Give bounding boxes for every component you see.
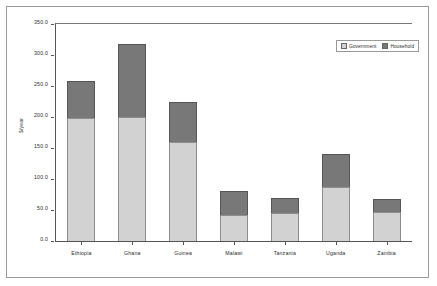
bar-segment-government[interactable] [169, 142, 197, 241]
y-axis-tick-label: 350.0 [34, 19, 48, 25]
bar-segment-household[interactable] [118, 44, 146, 117]
legend-swatch-government [341, 43, 347, 49]
bar-group[interactable]: Tanzania [271, 198, 299, 241]
y-axis-tick-label: 50.0 [37, 205, 48, 211]
legend-label: Household [390, 44, 414, 49]
bar-group[interactable]: Ethiopia [67, 81, 95, 241]
y-axis-tick-mark [51, 148, 54, 149]
x-axis-tick-mark [132, 241, 133, 245]
chart-frame: $/year 350.0300.0250.0200.0150.0100.050.… [6, 6, 429, 278]
bar-group[interactable]: Guinea [169, 102, 197, 241]
x-axis-tick-mark [285, 241, 286, 245]
bar-segment-government[interactable] [118, 117, 146, 241]
bar-segment-household[interactable] [67, 81, 95, 118]
x-axis-tick-label: Uganda [326, 250, 345, 256]
legend-label: Government [349, 44, 376, 49]
x-axis-tick-label: Malawi [225, 250, 242, 256]
y-axis-tick-mark [51, 86, 54, 87]
y-axis-tick-mark [51, 241, 54, 242]
chart-legend: GovernmentHousehold [336, 40, 419, 52]
x-axis-tick-label: Guinea [174, 250, 192, 256]
bar-group[interactable]: Malawi [220, 191, 248, 241]
y-axis-tick-label: 0.0 [40, 236, 48, 242]
bar-segment-household[interactable] [373, 199, 401, 212]
x-axis-tick-mark [336, 241, 337, 245]
x-axis-tick-mark [81, 241, 82, 245]
y-axis-title: $/year [18, 118, 24, 133]
bar-segment-household[interactable] [271, 198, 299, 213]
bar-segment-government[interactable] [271, 213, 299, 241]
y-axis-tick-mark [51, 24, 54, 25]
y-axis-tick-mark [51, 117, 54, 118]
legend-swatch-household [382, 43, 388, 49]
y-axis-tick-label: 200.0 [34, 112, 48, 118]
x-axis-tick-mark [183, 241, 184, 245]
bar-segment-household[interactable] [220, 191, 248, 215]
bar-segment-household[interactable] [322, 154, 350, 187]
plot-area: 350.0300.0250.0200.0150.0100.050.00.0 Et… [55, 23, 412, 242]
legend-item[interactable]: Government [341, 43, 376, 49]
x-axis-tick-mark [387, 241, 388, 245]
bar-segment-government[interactable] [220, 215, 248, 241]
y-axis-tick-label: 250.0 [34, 81, 48, 87]
bar-segment-government[interactable] [373, 212, 401, 241]
x-axis-tick-label: Ghana [124, 250, 141, 256]
y-axis-tick-label: 300.0 [34, 50, 48, 56]
bar-segment-household[interactable] [169, 102, 197, 142]
legend-item[interactable]: Household [382, 43, 414, 49]
y-axis-tick-mark [51, 210, 54, 211]
x-axis-tick-label: Ethiopia [71, 250, 91, 256]
y-axis-tick-mark [51, 179, 54, 180]
x-axis-tick-label: Zambia [377, 250, 396, 256]
x-axis-tick-mark [234, 241, 235, 245]
bar-segment-government[interactable] [322, 187, 350, 241]
x-axis-tick-label: Tanzania [274, 250, 296, 256]
y-axis-tick-mark [51, 55, 54, 56]
bar-group[interactable]: Ghana [118, 44, 146, 241]
y-axis-tick-label: 150.0 [34, 143, 48, 149]
bar-group[interactable]: Uganda [322, 154, 350, 241]
y-axis-tick-label: 100.0 [34, 174, 48, 180]
bar-group[interactable]: Zambia [373, 199, 401, 241]
bar-segment-government[interactable] [67, 118, 95, 241]
